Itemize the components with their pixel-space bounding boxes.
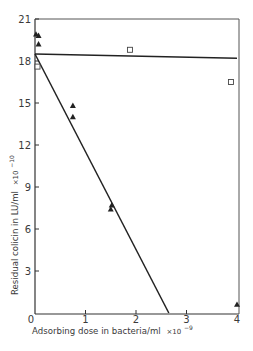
plot-frame [35, 19, 239, 314]
triangle-marker [36, 41, 42, 46]
y-tick-label: 18 [18, 56, 31, 67]
x-tick-label: 1 [82, 314, 88, 325]
square-marker [228, 80, 233, 85]
triangle-marker [70, 103, 76, 108]
fit-line-squares [35, 54, 237, 58]
square-marker [127, 47, 132, 52]
triangle-marker [70, 114, 76, 119]
y-tick-label: 9 [25, 182, 31, 193]
y-tick-label: 15 [18, 98, 31, 109]
x-axis-ticks: 01234 [28, 310, 240, 325]
x-tick-label: 4 [234, 314, 240, 325]
x-tick-label: 0 [28, 314, 34, 325]
fit-lines [35, 54, 237, 313]
x-tick-label: 2 [133, 314, 139, 325]
data-markers [33, 31, 240, 307]
square-marker [35, 64, 40, 69]
y-axis-label: Residual colicin in LU/ml ×10 −10 [8, 155, 20, 295]
y-tick-label: 12 [18, 140, 31, 151]
y-tick-label: 6 [25, 224, 31, 235]
y-tick-label: 3 [25, 266, 31, 277]
triangle-marker [109, 202, 115, 207]
chart-figure: 36912151821 01234 Adsorbing dose in bact… [0, 0, 253, 351]
x-axis-label: Adsorbing dose in bacteria/ml ×10 −9 [32, 324, 193, 336]
y-tick-label: 21 [18, 14, 31, 25]
fit-line-triangles [35, 54, 169, 313]
